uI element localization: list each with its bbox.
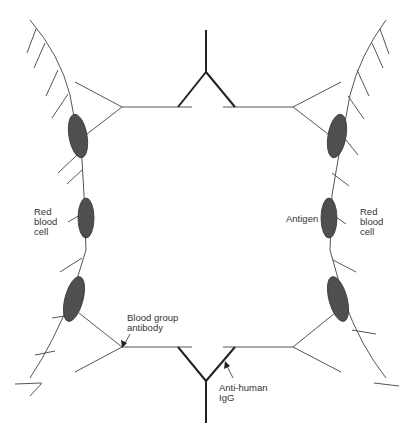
agglutination-diagram (0, 0, 411, 436)
anti-human-igg-label: Anti-human IgG (219, 383, 268, 403)
right-red-blood-cells (321, 113, 353, 324)
right-cell-membrane (330, 20, 399, 386)
right-red-blood-cell-label: Red blood cell (360, 207, 383, 237)
right-antigen-bottom (323, 274, 352, 323)
blood-group-antibody-bottom-right (223, 313, 341, 372)
left-red-blood-cells (59, 113, 94, 324)
blood-group-antibody-top-right (223, 82, 341, 134)
left-antigen-middle (78, 198, 94, 238)
left-red-blood-cell-label: Red blood cell (34, 207, 57, 237)
antigen-label: Antigen (286, 214, 318, 224)
blood-group-antibody-top-left (75, 82, 192, 134)
blood-group-antibody-arrow-icon (121, 334, 130, 348)
anti-human-igg-top (178, 30, 235, 107)
anti-human-igg-arrow-icon (224, 361, 233, 378)
blood-group-antibody-label: Blood group antibody (127, 313, 178, 333)
right-antigen-middle (321, 198, 337, 238)
left-antigen-top (65, 113, 90, 159)
